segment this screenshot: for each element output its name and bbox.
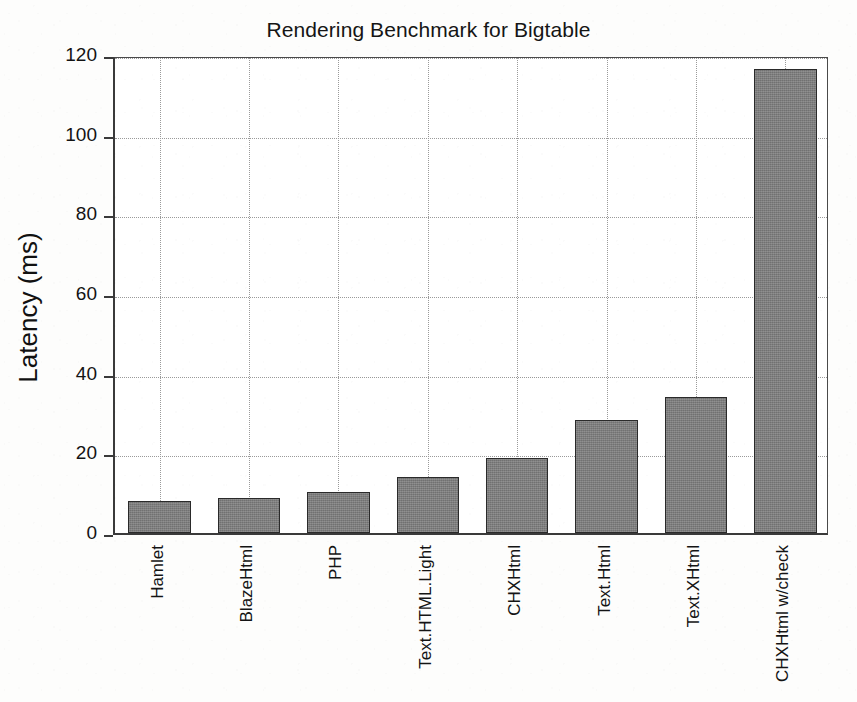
- x-tick-label: Hamlet: [158, 491, 178, 545]
- chart-figure: Rendering Benchmark for Bigtable Latency…: [0, 0, 857, 702]
- x-tick-label: Text.Html: [605, 474, 625, 545]
- x-tick-label-text: Text.Html: [595, 545, 615, 616]
- y-tick-mark: [104, 455, 113, 457]
- x-tick-label-text: Text.HTML.Light: [416, 545, 436, 669]
- x-tick-label-text: CHXHtml w/check: [773, 545, 793, 682]
- y-tick-label: 0: [0, 522, 97, 544]
- gridline-horizontal: [115, 217, 827, 218]
- gridline-vertical: [249, 58, 250, 533]
- x-tick-label: BlazeHtml: [247, 468, 267, 545]
- x-tick-label: CHXHtml: [515, 474, 535, 545]
- y-tick-mark: [104, 137, 113, 139]
- y-tick-mark: [104, 216, 113, 218]
- x-tick-label-text: CHXHtml: [505, 545, 525, 616]
- y-tick-label: 100: [0, 124, 97, 146]
- x-tick-label-text: Text.XHtml: [684, 545, 704, 627]
- plot-area: [113, 57, 828, 535]
- x-tick-label: CHXHtml w/check: [783, 408, 803, 545]
- gridline-horizontal: [115, 138, 827, 139]
- chart-title: Rendering Benchmark for Bigtable: [0, 18, 857, 42]
- x-tick-label-text: BlazeHtml: [237, 545, 257, 622]
- gridline-vertical: [338, 58, 339, 533]
- x-tick-label: Text.HTML.Light: [426, 421, 446, 545]
- y-tick-label: 80: [0, 203, 97, 225]
- x-tick-label-text: PHP: [326, 545, 346, 580]
- y-tick-mark: [104, 296, 113, 298]
- gridline-horizontal: [115, 297, 827, 298]
- y-tick-label: 20: [0, 442, 97, 464]
- x-tick-label: PHP: [336, 510, 356, 545]
- y-tick-label: 60: [0, 283, 97, 305]
- y-tick-label: 120: [0, 44, 97, 66]
- x-tick-label-text: Hamlet: [148, 545, 168, 599]
- x-tick-label: Text.XHtml: [694, 463, 714, 545]
- y-tick-mark: [104, 535, 113, 537]
- y-tick-label: 40: [0, 363, 97, 385]
- gridline-vertical: [160, 58, 161, 533]
- gridline-horizontal: [115, 377, 827, 378]
- y-tick-mark: [104, 376, 113, 378]
- y-tick-mark: [104, 57, 113, 59]
- gridline-horizontal: [115, 58, 827, 59]
